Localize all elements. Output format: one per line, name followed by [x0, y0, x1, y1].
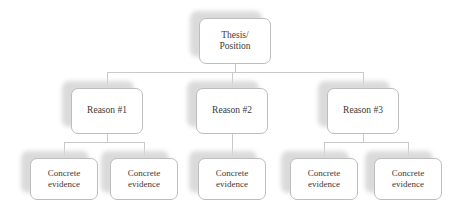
node-reason-1-label: Reason #1	[84, 105, 130, 116]
node-reason-3[interactable]: Reason #3	[327, 88, 399, 134]
connector-branch-3-stem	[363, 134, 364, 142]
node-reason-2[interactable]: Reason #2	[196, 88, 268, 134]
node-evidence-3-label: Concrete evidence	[213, 168, 251, 189]
node-evidence-5[interactable]: Concrete evidence	[374, 158, 442, 200]
connector-branch-1-bus	[64, 142, 144, 143]
node-evidence-1-label: Concrete evidence	[45, 168, 83, 189]
node-thesis-label: Thesis/ Position	[216, 30, 253, 52]
connector-branch-3-bus	[324, 142, 408, 143]
node-reason-1[interactable]: Reason #1	[71, 88, 143, 134]
node-evidence-2[interactable]: Concrete evidence	[110, 158, 178, 200]
node-reason-3-label: Reason #3	[340, 105, 386, 116]
connector-branch-1-stem	[107, 134, 108, 142]
node-thesis[interactable]: Thesis/ Position	[199, 18, 271, 64]
connector-reason-bus	[107, 72, 363, 73]
diagram-canvas: Thesis/ PositionReason #1Reason #2Reason…	[0, 0, 468, 214]
node-evidence-3[interactable]: Concrete evidence	[198, 158, 266, 200]
node-evidence-4-label: Concrete evidence	[305, 168, 343, 189]
node-evidence-4[interactable]: Concrete evidence	[290, 158, 358, 200]
node-evidence-2-label: Concrete evidence	[125, 168, 163, 189]
node-evidence-5-label: Concrete evidence	[389, 168, 427, 189]
node-evidence-1[interactable]: Concrete evidence	[30, 158, 98, 200]
connector-thesis-stem	[235, 64, 236, 72]
node-reason-2-label: Reason #2	[209, 105, 255, 116]
